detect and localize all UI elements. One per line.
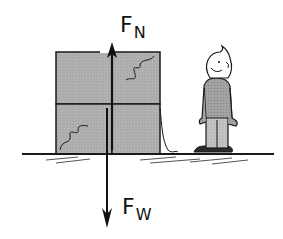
box-top-right [112, 52, 160, 104]
person-shirt [204, 78, 232, 118]
box-top-left [56, 52, 112, 104]
string-hanging [160, 108, 178, 152]
ground [22, 154, 274, 164]
normal-force-subscript: N [134, 23, 146, 42]
normal-force-symbol: F [120, 12, 133, 37]
weight-force-subscript: W [136, 205, 152, 224]
box-bottom-left [56, 104, 112, 154]
weight-force-symbol: F [122, 194, 135, 219]
person-eye [218, 61, 220, 63]
weight-force-label: FW [122, 196, 151, 218]
box-bottom-right [112, 104, 160, 154]
cartoon-person [194, 46, 237, 152]
normal-force-label: FN [120, 14, 146, 36]
box-stack [56, 52, 178, 154]
